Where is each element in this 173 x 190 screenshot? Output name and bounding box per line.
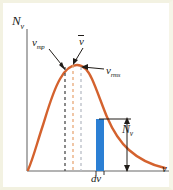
v-mp-label-sub: mp [37, 43, 45, 50]
v-bar-label-main: v [79, 36, 84, 47]
x-axis-label: v [162, 163, 167, 174]
v-mp-label: vmp [32, 37, 44, 51]
v-rms-label-sub: rms [111, 71, 120, 78]
nv-dimension-label-sub: v [130, 129, 133, 138]
dv-label: dv [91, 173, 101, 184]
distribution-plot [3, 3, 173, 190]
v-rms-label: vrms [106, 65, 120, 79]
y-axis-label: Nv [12, 14, 24, 31]
dv-bar [96, 119, 104, 171]
maxwell-boltzmann-figure: Nv vmp v vrms Nv dv v [0, 0, 173, 190]
nv-dimension-label-main: N [122, 122, 130, 136]
y-axis-label-sub: v [20, 22, 23, 31]
nv-dimension-label: Nv [122, 123, 133, 138]
v-bar-label: v [79, 36, 84, 47]
